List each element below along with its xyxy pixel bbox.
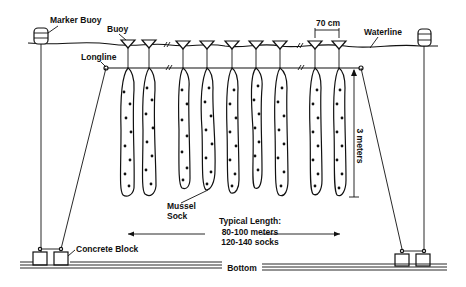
- concrete-blocks-right: [395, 249, 430, 266]
- mussel-sock: [178, 68, 190, 189]
- right-anchor-line: [361, 68, 402, 249]
- length-socks: 120-140 socks: [221, 237, 279, 247]
- buoy-icon: [225, 41, 239, 68]
- mussel-sock: [143, 68, 157, 196]
- left-anchor-line: [61, 68, 106, 249]
- concrete-blocks-left: [33, 247, 68, 265]
- mussel-sock-label-line2: Sock: [167, 211, 188, 221]
- buoy-icon: [121, 40, 135, 68]
- marker-buoy-leader: [48, 26, 58, 33]
- depth-dimension: 3 meters: [349, 69, 365, 197]
- bottom-label: Bottom: [227, 263, 257, 273]
- waterline-label: Waterline: [364, 27, 402, 37]
- marker-buoy-right: [418, 29, 431, 253]
- buoy-label: Buoy: [107, 24, 129, 34]
- marker-buoy-label: Marker Buoy: [50, 15, 102, 25]
- spacing-label: 70 cm: [316, 18, 341, 28]
- length-title: Typical Length:: [219, 216, 281, 226]
- spacing-dimension: 70 cm: [315, 18, 341, 38]
- mussel-sock: [334, 68, 346, 196]
- concrete-block-label: Concrete Block: [76, 244, 139, 254]
- buoy-icon: [176, 41, 190, 68]
- length-meters: 80-100 meters: [222, 227, 279, 237]
- mussel-sock: [310, 68, 322, 195]
- longline-label: Longline: [81, 52, 117, 62]
- marker-buoy-left: [34, 28, 48, 253]
- longline-diagram: Marker Buoy Waterline Buoy 70 cm: [0, 0, 466, 287]
- depth-label: 3 meters: [355, 129, 365, 164]
- mussel-sock: [201, 68, 215, 190]
- mussel-sock: [227, 68, 239, 193]
- mussel-sock-label-line1: Mussel: [167, 201, 196, 211]
